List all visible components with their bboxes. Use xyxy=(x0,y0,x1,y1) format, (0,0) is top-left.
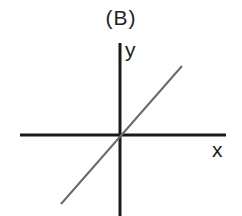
y-axis-label: y xyxy=(125,39,136,60)
plot-area xyxy=(0,0,242,216)
x-axis-label: x xyxy=(212,139,223,160)
graph-diagram: (B) y x xyxy=(0,0,242,216)
